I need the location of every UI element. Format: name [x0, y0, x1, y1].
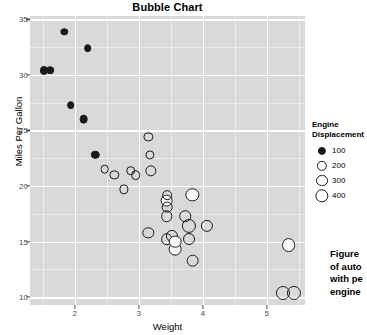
caption-line: Figure — [330, 248, 367, 261]
size-legend: Engine Displacement 100200300400 — [312, 120, 367, 203]
legend-key-bubble-icon — [312, 143, 332, 158]
bubble-chart-figure: Bubble Chart 1015202530352345 Weight Mil… — [0, 0, 367, 335]
legend-label: 200 — [332, 161, 345, 170]
y-tick-label: 35 — [19, 15, 28, 24]
y-tick-label: 10 — [19, 293, 28, 302]
gridline-major-horizontal — [30, 75, 305, 76]
figure-caption: Figure of autowith peengine — [330, 248, 367, 298]
data-point-bubble — [79, 115, 88, 124]
caption-line: with pe — [330, 273, 367, 286]
gridline-minor-vertical — [43, 16, 44, 305]
gridline-major-vertical — [75, 16, 76, 305]
gridline-major-vertical — [139, 16, 140, 305]
gridline-major-horizontal — [30, 19, 305, 20]
data-point-bubble — [143, 227, 154, 238]
x-axis-title: Weight — [30, 321, 305, 332]
x-tick-label: 2 — [73, 309, 77, 318]
gridline-minor-vertical — [299, 16, 300, 305]
data-point-bubble — [282, 238, 296, 252]
legend-key-bubble-icon — [312, 188, 332, 203]
chart-title: Bubble Chart — [30, 1, 305, 13]
data-point-bubble — [183, 233, 195, 245]
legend-label: 400 — [332, 191, 345, 200]
data-point-bubble — [145, 165, 156, 176]
data-point-bubble — [162, 190, 172, 200]
data-point-bubble — [46, 67, 54, 75]
legend-title-line2: Displacement — [312, 130, 367, 140]
y-axis-title: Miles Per Gallon — [13, 52, 24, 212]
gridline-minor-vertical — [107, 16, 108, 305]
x-tick-label: 4 — [200, 309, 204, 318]
data-point-bubble — [161, 210, 173, 222]
gridline-major-horizontal — [30, 297, 305, 298]
legend-label: 300 — [332, 176, 345, 185]
gridline-minor-horizontal — [30, 158, 305, 159]
gridline-major-horizontal — [30, 130, 305, 131]
x-tick-label: 3 — [136, 309, 140, 318]
data-point-bubble — [186, 188, 199, 201]
legend-bubble-icon — [316, 175, 328, 187]
data-point-bubble — [182, 219, 196, 233]
y-tick-label: 15 — [19, 237, 28, 246]
legend-label: 100 — [332, 146, 345, 155]
plot-panel — [30, 16, 305, 305]
gridline-minor-horizontal — [30, 269, 305, 270]
legend-key-bubble-icon — [312, 173, 332, 188]
legend-bubble-icon — [315, 189, 328, 202]
legend-title-line1: Engine — [312, 120, 367, 130]
data-point-bubble — [201, 220, 213, 232]
data-point-bubble — [61, 28, 68, 35]
gridline-minor-vertical — [171, 16, 172, 305]
legend-bubble-icon — [318, 146, 326, 154]
data-point-bubble — [169, 235, 182, 248]
data-point-bubble — [131, 170, 141, 180]
gridline-minor-horizontal — [30, 47, 305, 48]
caption-line: engine — [330, 286, 367, 299]
data-point-bubble — [110, 170, 119, 179]
legend-items: 100200300400 — [312, 143, 367, 203]
gridline-major-vertical — [203, 16, 204, 305]
legend-row-200[interactable]: 200 — [312, 158, 367, 173]
gridline-minor-vertical — [235, 16, 236, 305]
legend-row-400[interactable]: 400 — [312, 188, 367, 203]
gridline-major-vertical — [267, 16, 268, 305]
data-point-bubble — [100, 165, 109, 174]
data-point-bubble — [84, 44, 92, 52]
legend-row-100[interactable]: 100 — [312, 143, 367, 158]
legend-row-300[interactable]: 300 — [312, 173, 367, 188]
legend-key-bubble-icon — [312, 158, 332, 173]
caption-line: of auto — [330, 261, 367, 274]
data-point-bubble — [119, 185, 128, 194]
data-point-bubble — [186, 254, 199, 267]
legend-bubble-icon — [317, 160, 327, 170]
data-point-bubble — [144, 133, 153, 142]
gridline-major-horizontal — [30, 186, 305, 187]
x-tick-label: 5 — [264, 309, 268, 318]
data-point-bubble — [67, 101, 75, 109]
